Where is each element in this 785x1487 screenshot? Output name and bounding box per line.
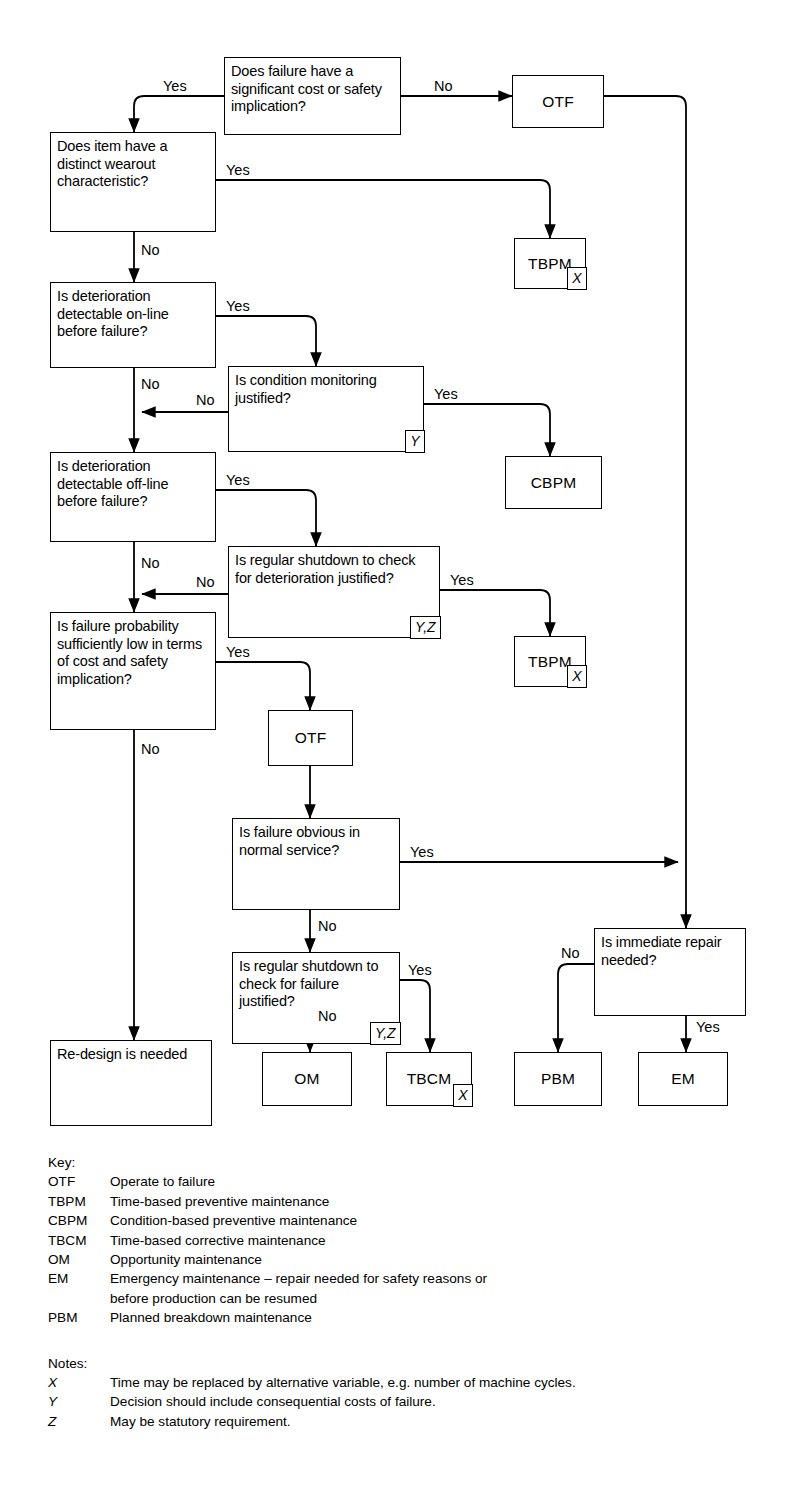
key-text: Opportunity maintenance (110, 1250, 748, 1269)
notes-item-x: X Time may be replaced by alternative va… (48, 1373, 748, 1392)
edge-label-q3-yes: Yes (226, 299, 250, 314)
edge-label-sf-no: No (318, 1009, 337, 1024)
key-abbr: CBPM (48, 1211, 110, 1230)
node-does-item-have-distinct-wearout[interactable]: Does item have a distinct wearout charac… (50, 132, 216, 232)
key-item-tbpm: TBPM Time-based preventive maintenance (48, 1192, 748, 1211)
edge-q5-yes (216, 662, 310, 710)
edge-label-sd-no: No (196, 575, 215, 590)
node-em[interactable]: EM (638, 1052, 728, 1106)
key-text: Time-based preventive maintenance (110, 1192, 748, 1211)
node-label: Is deterioration detectable on-line befo… (57, 288, 169, 339)
notes-text: Time may be replaced by alternative vari… (110, 1373, 748, 1392)
node-is-immediate-repair-needed[interactable]: Is immediate repair needed? (594, 928, 746, 1016)
key-text: Condition-based preventive maintenance (110, 1211, 748, 1230)
edge-otf-top-down (604, 96, 686, 928)
node-marker-yz: Y,Z (370, 1022, 401, 1045)
edge-label-q1-no: No (434, 79, 453, 94)
edge-label-fo-yes: Yes (410, 845, 434, 860)
key-item-om: OM Opportunity maintenance (48, 1250, 748, 1269)
key-abbr: TBPM (48, 1192, 110, 1211)
key-text: Time-based corrective maintenance (110, 1231, 748, 1250)
notes-item-y: Y Decision should include consequential … (48, 1392, 748, 1411)
node-is-regular-shutdown-deterioration[interactable]: Is regular shutdown to check for deterio… (228, 546, 440, 638)
key-item-em: EM Emergency maintenance – repair needed… (48, 1269, 748, 1288)
node-redesign-is-needed[interactable]: Re-design is needed (50, 1040, 212, 1126)
edge-label-q4-yes: Yes (226, 473, 250, 488)
node-label: TBPM (528, 255, 572, 273)
legend-block: Key: OTF Operate to failure TBPM Time-ba… (48, 1153, 748, 1431)
node-is-condition-monitoring-justified[interactable]: Is condition monitoring justified? Y (228, 366, 424, 452)
node-label: Is failure probability sufficiently low … (57, 618, 202, 687)
edge-label-sd-yes: Yes (450, 573, 474, 588)
node-label: Re-design is needed (57, 1046, 187, 1062)
edge-label-ir-yes: Yes (696, 1020, 720, 1035)
notes-item-z: Z May be statutory requirement. (48, 1412, 748, 1431)
node-cbpm[interactable]: CBPM (505, 456, 602, 509)
node-om[interactable]: OM (262, 1052, 352, 1106)
key-item-tbcm: TBCM Time-based corrective maintenance (48, 1231, 748, 1250)
edge-sf-yes (400, 980, 430, 1052)
node-label: PBM (541, 1070, 575, 1088)
node-label: Is deterioration detectable off-line bef… (57, 458, 168, 509)
edge-label-sf-yes: Yes (408, 963, 432, 978)
key-item-em-continued: before production can be resumed (110, 1289, 748, 1308)
key-abbr: TBCM (48, 1231, 110, 1250)
node-is-deterioration-detectable-online[interactable]: Is deterioration detectable on-line befo… (50, 282, 216, 368)
key-item-cbpm: CBPM Condition-based preventive maintena… (48, 1211, 748, 1230)
edge-label-cm-no: No (196, 393, 215, 408)
notes-abbr: Z (48, 1412, 110, 1431)
edge-label-fo-no: No (318, 919, 337, 934)
node-label: CBPM (531, 474, 577, 492)
notes-block: Notes: X Time may be replaced by alterna… (48, 1354, 748, 1432)
notes-abbr: X (48, 1373, 110, 1392)
edge-label-q5-yes: Yes (226, 645, 250, 660)
notes-abbr: Y (48, 1392, 110, 1411)
node-marker-x: X (453, 1084, 472, 1107)
node-label: Is condition monitoring justified? (235, 372, 377, 406)
edge-sd-yes (440, 590, 550, 636)
node-pbm[interactable]: PBM (514, 1052, 602, 1106)
node-marker-x: X (567, 267, 586, 290)
node-is-failure-obvious[interactable]: Is failure obvious in normal service? (232, 818, 400, 910)
edge-label-q4-no: No (141, 556, 160, 571)
node-tbpm-mid[interactable]: TBPM X (514, 636, 586, 687)
edge-q3-yes (216, 316, 316, 366)
node-label: TBPM (528, 653, 572, 671)
key-item-otf: OTF Operate to failure (48, 1172, 748, 1191)
node-label: Does item have a distinct wearout charac… (57, 138, 167, 189)
node-does-failure-have-significant-cost[interactable]: Does failure have a significant cost or … (224, 57, 401, 135)
node-is-deterioration-detectable-offline[interactable]: Is deterioration detectable off-line bef… (50, 452, 216, 542)
key-abbr: EM (48, 1269, 110, 1288)
notes-text: Decision should include consequential co… (110, 1392, 748, 1411)
node-label: OTF (295, 729, 327, 747)
node-otf-mid[interactable]: OTF (268, 710, 353, 766)
edge-q1-yes (134, 96, 224, 132)
node-label: EM (671, 1070, 695, 1088)
edge-q2-yes (216, 180, 550, 238)
edge-label-ir-no: No (561, 946, 580, 961)
edge-label-cm-yes: Yes (434, 387, 458, 402)
node-label: Is failure obvious in normal service? (239, 824, 360, 858)
node-tbpm-top[interactable]: TBPM X (514, 238, 586, 289)
node-otf-top[interactable]: OTF (512, 75, 604, 128)
node-label: Does failure have a significant cost or … (231, 63, 382, 114)
node-marker-y: Y (405, 430, 424, 453)
node-marker-yz: Y,Z (410, 616, 441, 639)
node-marker-x: X (567, 665, 586, 688)
notes-text: May be statutory requirement. (110, 1412, 748, 1431)
node-tbcm[interactable]: TBCM X (386, 1052, 472, 1106)
key-text: Emergency maintenance – repair needed fo… (110, 1269, 748, 1288)
edge-label-q1-yes: Yes (163, 79, 187, 94)
edge-label-q5-no: No (141, 742, 160, 757)
node-label: Is immediate repair needed? (601, 934, 721, 968)
node-is-failure-probability-low[interactable]: Is failure probability sufficiently low … (50, 612, 216, 730)
edge-label-q2-yes: Yes (226, 163, 250, 178)
key-abbr: OM (48, 1250, 110, 1269)
node-label: Is regular shutdown to check for deterio… (235, 552, 415, 586)
edge-cm-yes (424, 404, 550, 456)
node-label: TBCM (407, 1070, 452, 1088)
edge-label-q3-no: No (141, 377, 160, 392)
node-is-regular-shutdown-failure[interactable]: Is regular shutdown to check for failure… (232, 952, 400, 1044)
edge-q4-yes (216, 490, 316, 546)
key-item-pbm: PBM Planned breakdown maintenance (48, 1308, 748, 1327)
